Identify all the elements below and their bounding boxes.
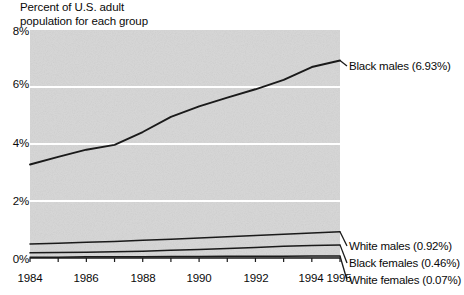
x-tick-label-1986: 1986 (69, 272, 103, 284)
legend-label-white-males: White males (0.92%) (349, 240, 452, 252)
legend-label-white-females: White females (0.07%) (349, 274, 461, 286)
legend-leader-lines (340, 60, 347, 280)
chart-figure: Percent of U.S. adult population for eac… (0, 0, 464, 295)
x-tick-label-1988: 1988 (126, 272, 160, 284)
x-tick-label-1990: 1990 (182, 272, 216, 284)
leader-line-black-males (340, 60, 347, 66)
x-tick-label-1992: 1992 (239, 272, 273, 284)
leader-line-white-males (340, 232, 347, 246)
legend-label-black-females: Black females (0.46%) (349, 257, 460, 269)
x-tick-label-1984: 1984 (13, 272, 47, 284)
legend-label-black-males: Black males (6.93%) (349, 60, 451, 72)
